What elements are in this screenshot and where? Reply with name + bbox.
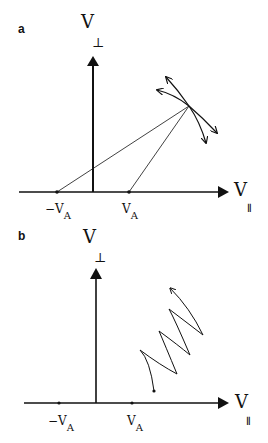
velocity-space-diagram — [0, 0, 268, 443]
y-axis-arrowhead-icon — [87, 56, 99, 66]
arc-arrow-up-outer — [166, 77, 189, 106]
particle-trajectory — [140, 288, 203, 391]
panel-b-label: b — [18, 229, 25, 243]
panel-a-label: a — [18, 22, 25, 36]
point-minus-va — [57, 401, 60, 404]
panel-a-y-axis-label: V — [81, 11, 94, 32]
y-axis-arrowhead-icon — [90, 268, 102, 279]
panel-a-x-axis-label: V — [234, 179, 247, 200]
panel-b-tick-minus-va: −VA — [48, 410, 74, 429]
y-axis-symbol: V — [81, 11, 94, 32]
arc-arrow-down-inner — [189, 106, 206, 143]
panel-b-x-axis-label: V — [235, 391, 248, 412]
line-from-minus-va — [57, 106, 189, 192]
x-axis-arrowhead-icon — [218, 397, 229, 409]
panel-b-tick-va: VA — [127, 410, 143, 429]
arc-arrow-down-outer — [189, 106, 217, 133]
panel-b — [24, 268, 229, 409]
panel-b-y-axis-label: V — [83, 226, 96, 247]
panel-a-y-axis-sub: ⊥ — [92, 35, 104, 50]
panel-a — [19, 56, 229, 198]
panel-b-y-axis-sub: ⊥ — [94, 250, 106, 265]
arc-arrow-up-inner — [157, 90, 189, 106]
x-axis-arrowhead-icon — [218, 186, 229, 198]
panel-a-tick-va: VA — [122, 198, 138, 217]
panel-a-x-axis-sub: ∥ — [247, 203, 252, 213]
panel-a-tick-minus-va: −VA — [45, 198, 71, 217]
line-from-va — [129, 106, 189, 192]
panel-b-x-axis-sub: ∥ — [246, 416, 251, 426]
point-va — [130, 401, 133, 404]
